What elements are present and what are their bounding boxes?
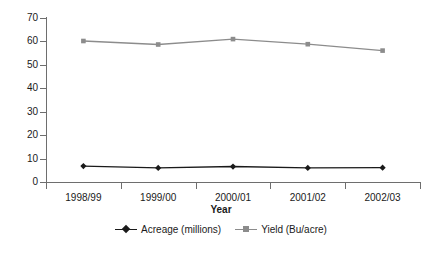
chart-legend: Acreage (millions) Yield (Bu/acre) [0, 224, 442, 235]
data-point-marker [80, 163, 86, 169]
data-point-marker [380, 165, 386, 171]
legend-marker-acreage-icon [115, 225, 137, 234]
legend-item-yield: Yield (Bu/acre) [235, 224, 327, 235]
data-point-marker [155, 165, 161, 171]
data-point-marker [305, 165, 311, 171]
legend-label-acreage: Acreage (millions) [141, 224, 221, 235]
data-point-marker [380, 48, 385, 53]
series-plot [0, 0, 442, 253]
data-point-marker [156, 42, 161, 47]
legend-label-yield: Yield (Bu/acre) [261, 224, 327, 235]
data-point-marker [231, 37, 236, 42]
x-axis-title: Year [0, 204, 442, 215]
legend-marker-yield-icon [235, 225, 257, 234]
data-point-marker [230, 163, 236, 169]
line-chart: 010203040506070 1998/991999/002000/01200… [0, 0, 442, 253]
data-point-marker [81, 39, 86, 44]
legend-item-acreage: Acreage (millions) [115, 224, 221, 235]
data-point-marker [306, 42, 311, 47]
